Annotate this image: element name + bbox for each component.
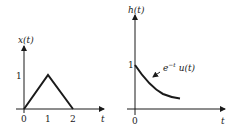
x-tick-2: 2 [70, 114, 76, 124]
y-label: x(t) [18, 35, 34, 45]
y-tick-1: 1 [128, 60, 134, 70]
x-t-plot: x(t) 1 0 1 2 t [16, 35, 105, 124]
y-tick-1: 1 [16, 71, 22, 81]
x-tick-0: 0 [21, 114, 27, 124]
h-t-plot: h(t) 1 0 t e−t u(t) [127, 5, 225, 126]
signals-diagram: x(t) 1 0 1 2 t h(t) 1 0 t e−t u(t) [0, 0, 236, 133]
exponential-decay-curve [135, 65, 180, 99]
x-label: t [101, 114, 105, 124]
x-tick-1: 1 [45, 114, 51, 124]
y-label: h(t) [128, 5, 145, 15]
curve-annotation: e−t u(t) [163, 61, 196, 73]
x-label: t [221, 116, 225, 126]
annotation-arrow [153, 72, 160, 77]
x-tick-0: 0 [132, 116, 138, 126]
triangle-signal [24, 75, 73, 109]
